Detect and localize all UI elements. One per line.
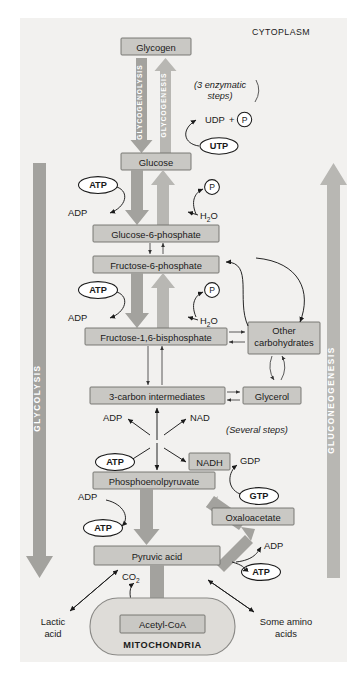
phosphate-label-3: P: [209, 285, 215, 295]
annotation-three-enzymatic-steps: (3 enzymatic steps): [194, 80, 259, 102]
water-label-1: H2O: [200, 210, 218, 223]
glycogenolysis-arrow-label: GLYCOGENOLYSIS: [136, 64, 143, 139]
cofactor-atp-5-label: ATP: [252, 567, 270, 577]
metabolite-pep-label: Phosphoenolpyruvate: [109, 476, 200, 487]
small-molecule-plus: +: [229, 114, 235, 125]
metabolite-pyruvate: Pyruvic acid: [94, 546, 220, 565]
metabolite-f6p-label: Fructose-6-phosphate: [110, 260, 202, 271]
small-molecule-adp-5: ADP: [264, 540, 283, 551]
metabolite-other-carbs-line-2: carbohydrates: [254, 337, 314, 348]
small-molecule-udp: UDP: [205, 114, 225, 125]
metabolite-3-carbon-intermediates: 3-carbon intermediates: [90, 387, 225, 404]
phosphate-label-2: P: [209, 182, 215, 192]
reaction-f16bp-other-carbs: [229, 332, 245, 342]
metabolite-glycerol: Glycerol: [243, 387, 301, 404]
reaction-g6p-f6p-reversible: [150, 243, 163, 254]
pathway-diagram: CYTOPLASM GLYCOLYSIS GLUCONEOGENESIS GLY…: [0, 0, 364, 682]
metabolite-glycogen-label: Glycogen: [136, 42, 176, 53]
reaction-glucose-to-g6p: ATP ADP: [68, 170, 149, 225]
cofactor-atp-4-label: ATP: [94, 523, 112, 533]
small-molecule-nad: NAD: [190, 412, 210, 423]
endpoint-lactic-acid-line-2: acid: [44, 628, 61, 639]
metabolite-3-carbon-label: 3-carbon intermediates: [109, 391, 205, 402]
figure-canvas: CYTOPLASM GLYCOLYSIS GLUCONEOGENESIS GLY…: [0, 0, 364, 682]
small-molecule-adp-4: ADP: [78, 491, 97, 502]
reaction-f16bp-3carbon-reversible: [148, 346, 162, 385]
annotation-line-2: steps): [207, 91, 232, 101]
metabolite-g6p: Glucose-6-phosphate: [93, 225, 219, 242]
metabolite-pep: Phosphoenolpyruvate: [93, 472, 215, 489]
metabolite-other-carbs-line-1: Other: [272, 325, 295, 336]
metabolite-glycogen: Glycogen: [121, 38, 191, 55]
metabolite-oxaloacetate: Oxaloacetate: [212, 508, 294, 525]
reaction-pep-to-pyruvate: ADP ATP: [78, 489, 160, 545]
metabolite-acetyl-coa-label: Acetyl-CoA: [139, 619, 187, 630]
metabolite-f16bp: Fructose-1,6-bisphosphate: [85, 328, 227, 345]
phosphate-label-1: P: [242, 115, 248, 125]
glycogenolysis-arrow: GLYCOGENOLYSIS: [131, 58, 153, 153]
metabolite-glucose-label: Glucose: [139, 157, 173, 168]
mitochondria-label: MITOCHONDRIA: [123, 640, 201, 650]
small-molecule-adp-2: ADP: [68, 312, 87, 323]
metabolite-f16bp-label: Fructose-1,6-bisphosphate: [100, 332, 212, 343]
metabolite-f6p: Fructose-6-phosphate: [93, 256, 219, 273]
metabolite-oxaloacetate-label: Oxaloacetate: [225, 512, 280, 523]
glycolysis-arrow: GLYCOLYSIS: [26, 163, 53, 578]
metabolite-nadh-label: NADH: [196, 457, 223, 468]
gluconeogenesis-arrow-label: GLUCONEOGENESIS: [327, 346, 336, 454]
cytoplasm-label: CYTOPLASM: [252, 27, 310, 37]
annotation-several-steps: (Several steps): [226, 425, 288, 435]
gluconeogenesis-arrow: GLUCONEOGENESIS: [320, 163, 347, 578]
glycogenesis-arrow: GLYCOGENESIS: [155, 58, 177, 153]
metabolite-g6p-label: Glucose-6-phosphate: [111, 229, 201, 240]
small-molecule-gdp: GDP: [240, 455, 260, 466]
annotation-line-1: (3 enzymatic: [194, 80, 246, 90]
reaction-3carbon-to-pep: ADP NAD ATP NADH: [96, 408, 231, 470]
reaction-other-carbs-to-f6p: [226, 258, 304, 326]
reaction-utp-to-udp: UDP + P UTP: [186, 112, 252, 154]
cofactor-atp-1-label: ATP: [89, 180, 107, 190]
co2-label: CO2: [122, 571, 140, 584]
small-molecule-adp-1: ADP: [68, 207, 87, 218]
endpoint-amino-acids-line-1: Some amino: [260, 616, 313, 627]
metabolite-pyruvate-label: Pyruvic acid: [132, 551, 183, 562]
reaction-3carbon-glycerol: [227, 392, 240, 400]
reaction-f16bp-to-f6p: P H2O: [151, 273, 219, 328]
glycolysis-arrow-label: GLYCOLYSIS: [33, 364, 42, 431]
reaction-other-carbs-glycerol: [270, 356, 285, 380]
endpoint-amino-acids-line-2: acids: [275, 628, 297, 639]
reaction-g6p-to-glucose: P H2O: [151, 170, 219, 225]
metabolite-glycerol-label: Glycerol: [255, 391, 289, 402]
endpoint-lactic-acid-line-1: Lactic: [41, 616, 66, 627]
mitochondria-organelle: Acetyl-CoA MITOCHONDRIA: [90, 598, 235, 655]
cofactor-gtp-label: GTP: [250, 491, 269, 501]
metabolite-glucose: Glucose: [121, 153, 191, 170]
reaction-f6p-to-f16bp: ATP ADP: [68, 273, 149, 328]
water-label-2: H2O: [200, 315, 218, 328]
glycogenesis-arrow-label: GLYCOGENESIS: [160, 73, 167, 138]
cofactor-atp-2-label: ATP: [89, 285, 107, 295]
small-molecule-adp-3: ADP: [103, 412, 122, 423]
cofactor-utp-label: UTP: [210, 141, 228, 151]
cofactor-atp-3-label: ATP: [106, 457, 124, 467]
metabolite-other-carbohydrates: Other carbohydrates: [248, 322, 320, 354]
reaction-pyruvate-to-oxaloacetate: ADP ATP: [216, 527, 283, 580]
